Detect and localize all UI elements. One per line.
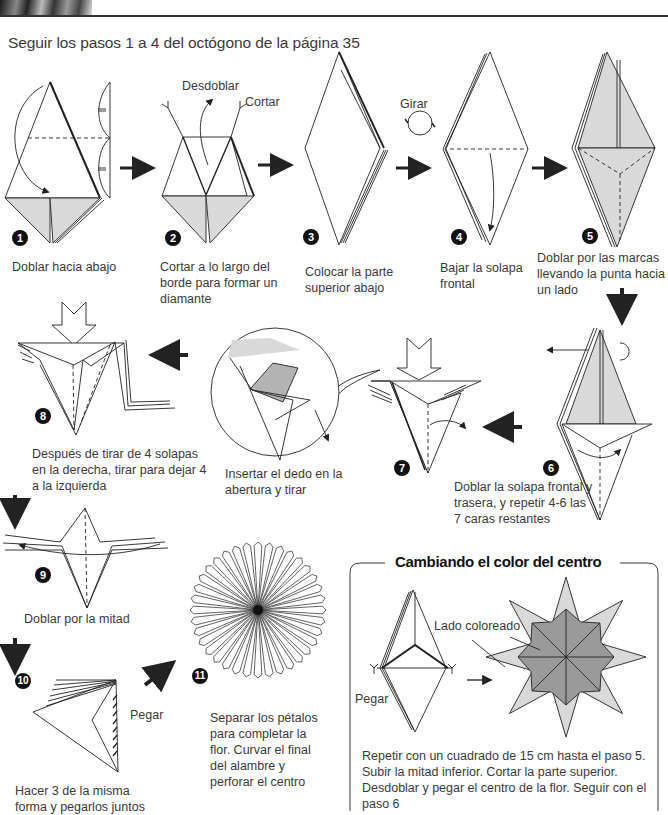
label-desdoblar: Desdoblar — [182, 79, 239, 93]
step-10-diagram — [33, 680, 118, 772]
step-1-diagram — [5, 82, 110, 243]
box-kite — [370, 590, 456, 732]
step-7-diagram — [368, 338, 481, 473]
step-number-10: 10 — [15, 673, 31, 689]
box-star — [472, 577, 646, 737]
step-number-7: 7 — [394, 460, 410, 476]
step-11-flower — [190, 542, 326, 678]
step-4-caption: Bajar la solapa frontal — [440, 260, 530, 292]
label-pegar-10: Pegar — [130, 708, 163, 722]
step-number-2: 2 — [165, 230, 181, 246]
box-text: Repetir con un cuadrado de 15 cm hasta e… — [362, 748, 662, 812]
step-5-diagram — [572, 52, 655, 247]
label-pegar-box: Pegar — [355, 692, 388, 706]
step-3-caption: Colocar la parte superior abajo — [305, 264, 415, 296]
detail-caption: Insertar el dedo en la abertura y tirar — [225, 466, 345, 498]
box-title: Cambiando el color del centro — [395, 553, 601, 570]
step-11-caption: Separar los pétalos para completar la fl… — [210, 710, 320, 790]
step-number-9: 9 — [35, 567, 51, 583]
step-2-caption: Cortar a lo largo del borde para formar … — [160, 259, 290, 307]
step-number-4: 4 — [451, 229, 467, 245]
step-5-caption: Doblar por las marcas llevando la punta … — [537, 250, 667, 298]
step-4-diagram — [443, 52, 528, 245]
step-1-caption: Doblar hacia abajo — [12, 259, 152, 275]
step-number-3: 3 — [303, 229, 319, 245]
step-10-caption: Hacer 3 de la misma forma y pegarlos jun… — [15, 783, 165, 815]
step-2-diagram — [162, 100, 254, 243]
step-3-diagram — [305, 52, 388, 245]
step-number-6: 6 — [543, 460, 559, 476]
step-number-1: 1 — [12, 230, 28, 246]
label-girar: Girar — [400, 97, 428, 111]
step-number-11: 11 — [192, 668, 208, 684]
step-9-caption: Doblar por la mitad — [24, 611, 174, 627]
label-cortar: Cortar — [245, 95, 280, 109]
step-number-5: 5 — [582, 228, 598, 244]
step-number-8: 8 — [35, 408, 51, 424]
step-6-caption: Doblar la solapa frontal y trasera, y re… — [454, 479, 594, 527]
detail-bubble — [211, 328, 380, 460]
step-9-diagram — [3, 508, 168, 608]
label-lado-coloreado: Lado coloreado — [434, 619, 520, 633]
step-8-caption: Después de tirar de 4 solapas en la dere… — [32, 446, 212, 494]
